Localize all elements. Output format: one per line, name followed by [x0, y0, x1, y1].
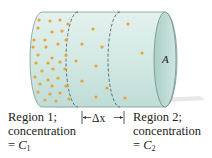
region-1-title: Region 1;	[8, 110, 76, 124]
region-2-value: = C2	[133, 138, 201, 156]
region-1-subtitle: concentration	[8, 124, 76, 138]
delta-x-label: Δx	[92, 112, 105, 124]
region-1-value: = C1	[8, 138, 76, 156]
area-label: A	[161, 53, 169, 65]
region-2-subtitle: concentration	[133, 124, 201, 138]
region-2-label: Region 2; concentration = C2	[133, 110, 201, 156]
region-1-label: Region 1; concentration = C1	[8, 110, 76, 156]
region-2-title: Region 2;	[133, 110, 201, 124]
